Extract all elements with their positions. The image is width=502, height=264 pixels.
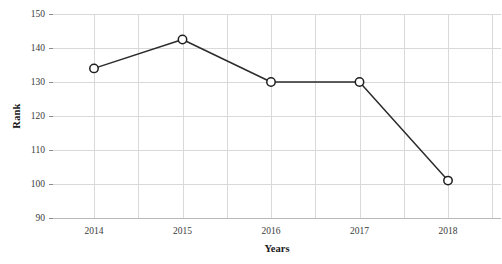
y-tick-label: 100 — [31, 179, 46, 189]
x-tick-label: 2017 — [350, 226, 369, 236]
y-tick-label: 90 — [36, 213, 46, 223]
x-tick-label: 2018 — [439, 226, 458, 236]
x-tick-label: 2014 — [85, 226, 104, 236]
x-axis-title: Years — [264, 243, 289, 254]
x-axis-ticks: 20142015201620172018 — [85, 226, 458, 236]
line-chart: 90100110120130140150 2014201520162017201… — [0, 0, 502, 264]
data-point-marker — [267, 78, 275, 86]
y-axis-ticks: 90100110120130140150 — [31, 9, 53, 223]
y-tick-label: 110 — [31, 145, 45, 155]
y-tick-label: 130 — [31, 77, 46, 87]
x-tick-label: 2016 — [262, 226, 281, 236]
y-tick-label: 140 — [31, 43, 46, 53]
chart-canvas: 90100110120130140150 2014201520162017201… — [0, 0, 502, 264]
data-point-marker — [355, 78, 363, 86]
y-tick-label: 150 — [31, 9, 46, 19]
data-point-marker — [90, 64, 98, 72]
y-tick-label: 120 — [31, 111, 46, 121]
y-axis-title: Rank — [11, 103, 22, 128]
data-point-marker — [444, 176, 452, 184]
x-tick-label: 2015 — [173, 226, 192, 236]
data-point-marker — [178, 35, 186, 43]
